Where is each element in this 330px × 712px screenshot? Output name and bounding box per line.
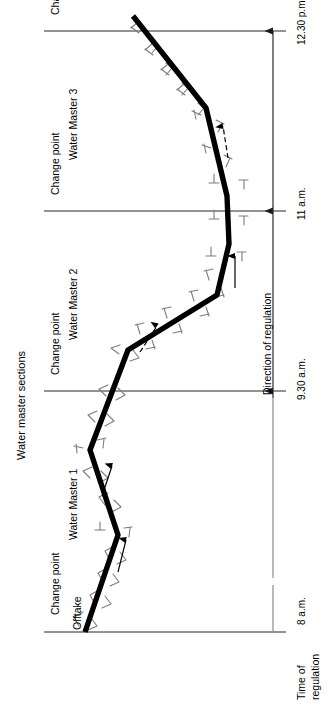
- change-point-label-930am: Change point: [50, 313, 61, 375]
- section-label-water-master-1: Water Master 1: [68, 469, 79, 540]
- axis-label-water-master-sections: Water master sections: [16, 351, 27, 460]
- change-point-label-1230pm: Change point: [50, 0, 61, 15]
- time-tick-930am: 9.30 a.m.: [297, 358, 307, 400]
- regulation-diagram: Water master sections Change point Chang…: [0, 0, 330, 712]
- regulation-line: [85, 16, 229, 632]
- section-label-water-master-2: Water Master 2: [68, 269, 79, 340]
- offtake-tick-marks: [74, 22, 248, 630]
- change-point-label-11am: Change point: [50, 133, 61, 195]
- axis-label-time-of-regulation-line1: Time of: [296, 665, 307, 700]
- direction-of-regulation-label: Direction of regulation: [262, 293, 273, 395]
- section-label-water-master-3: Water Master 3: [68, 89, 79, 160]
- change-point-label-8am: Change point: [50, 553, 61, 615]
- time-tick-11am: 11 a.m.: [297, 187, 307, 220]
- time-tick-1230pm: 12.30 p.m.: [297, 0, 307, 45]
- offtake-label: Offtake: [72, 596, 83, 630]
- time-tick-8am: 8 a.m.: [297, 597, 307, 625]
- axis-label-time-of-regulation-line2: regulation: [310, 654, 321, 700]
- change-point-gridlines: [44, 31, 286, 632]
- flow-direction-arrows: [102, 126, 235, 572]
